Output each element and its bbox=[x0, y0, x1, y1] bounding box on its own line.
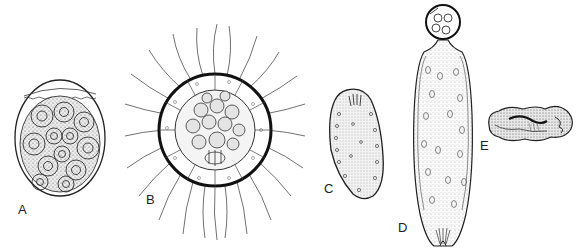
panel-label-d: D bbox=[398, 221, 407, 234]
panel-e-contracted-form bbox=[485, 103, 575, 145]
cyst-illustration bbox=[12, 74, 108, 200]
panel-c-elongate-cell bbox=[327, 86, 385, 200]
panel-a-cyst bbox=[12, 74, 108, 200]
panel-label-b: B bbox=[146, 193, 155, 206]
contracted-form-illustration bbox=[485, 103, 575, 145]
cropped-caption-bottom bbox=[0, 247, 584, 251]
elongate-cell-illustration bbox=[327, 86, 385, 200]
cropped-caption-top bbox=[0, 0, 584, 4]
panel-label-a: A bbox=[18, 203, 27, 216]
panel-d-stalked-cell bbox=[410, 4, 476, 250]
figure-plate: A bbox=[0, 0, 584, 251]
panel-label-e: E bbox=[480, 139, 489, 152]
stalked-cell-illustration bbox=[410, 4, 476, 250]
panel-label-c: C bbox=[324, 182, 333, 195]
